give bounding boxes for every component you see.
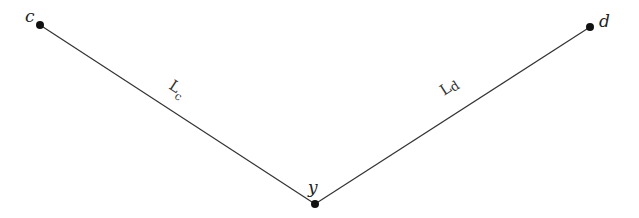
node-c-label: c	[25, 6, 35, 26]
node-c	[36, 21, 44, 29]
diagram-canvas: c d y L c L d	[0, 0, 639, 218]
node-y-label: y	[307, 177, 318, 197]
edge-c-y-label: L c	[164, 76, 190, 103]
node-y	[311, 200, 319, 208]
node-d-label: d	[599, 11, 610, 31]
node-d	[586, 23, 594, 31]
edge-d-y-label: L d	[436, 74, 462, 100]
edge-c-y	[40, 25, 315, 204]
edge-d-y	[315, 27, 590, 204]
